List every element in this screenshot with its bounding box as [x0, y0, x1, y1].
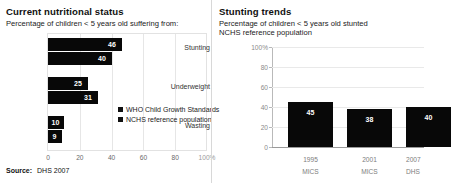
bar-value-wasting-nchs: 9	[53, 130, 57, 143]
gridline-100	[272, 47, 424, 48]
gridline-80	[175, 34, 176, 150]
bar-value-underweight-who: 25	[74, 77, 82, 90]
bar-value-stunting-who: 46	[108, 38, 116, 51]
left-plot-area: 46 40 25 31 10 9 WHO Child Growth Standa…	[47, 33, 207, 151]
bar-value-2007: 40	[406, 114, 451, 121]
ytick-mark-60	[269, 87, 272, 88]
right-plot-area: 45 38 40	[272, 47, 424, 148]
bar-2007	[406, 107, 451, 147]
grouptick-1995-survey: MICS	[288, 167, 333, 176]
source-note: Source:DHS 2007	[6, 167, 69, 174]
right-chart-subtitle-line1: Percentage of children < 5 years old stu…	[219, 19, 424, 28]
grouptick-1995-year: 1995	[288, 155, 333, 164]
y-axis-line	[272, 47, 273, 148]
xtick-60: 60	[140, 154, 147, 161]
ytick-mark-100	[269, 47, 272, 48]
ytick-mark-0	[269, 147, 272, 148]
right-chart-subtitle-line2: NCHS reference population	[219, 28, 424, 37]
gridline-60	[143, 34, 144, 150]
bar-value-2001: 38	[347, 116, 392, 123]
grouptick-2007-survey: DHS	[406, 167, 451, 176]
ytick-mark-20	[269, 127, 272, 128]
xtick-80: 80	[172, 154, 179, 161]
ytick-label-60: 60	[246, 84, 268, 91]
bar-2001	[347, 109, 392, 147]
grouptick-2007-year: 2007	[406, 155, 451, 164]
xtick-20: 20	[76, 154, 83, 161]
xtick-40: 40	[108, 154, 115, 161]
bar-underweight-who	[48, 77, 88, 90]
ytick-mark-40	[269, 107, 272, 108]
category-label-wasting: Wasting	[185, 122, 210, 129]
ytick-label-40: 40	[246, 104, 268, 111]
grouptick-2001-year: 2001	[347, 155, 392, 164]
ytick-mark-80	[269, 67, 272, 68]
gridline-80	[272, 67, 424, 68]
gridline-60	[272, 87, 424, 88]
legend-label-who: WHO Child Growth Standards	[126, 106, 219, 113]
panel-divider	[211, 0, 212, 183]
ytick-label-100: 100%	[246, 44, 268, 51]
right-chart-title: Stunting trends	[219, 6, 424, 17]
ytick-label-0: 0	[246, 144, 268, 151]
legend-item-who: WHO Child Growth Standards	[118, 106, 219, 113]
ytick-label-80: 80	[246, 64, 268, 71]
bar-value-underweight-nchs: 31	[84, 91, 92, 104]
bar-value-1995: 45	[288, 109, 333, 116]
bar-value-wasting-who: 10	[52, 116, 60, 129]
source-label: Source:	[6, 167, 32, 174]
source-value: DHS 2007	[37, 167, 69, 174]
ytick-label-20: 20	[246, 124, 268, 131]
x-axis-line	[272, 147, 424, 148]
left-chart-subtitle: Percentage of children < 5 years old suf…	[6, 19, 212, 28]
grouptick-2001-survey: MICS	[347, 167, 392, 176]
legend-swatch-icon	[118, 107, 123, 112]
xtick-0: 0	[46, 154, 50, 161]
left-chart-title: Current nutritional status	[6, 6, 212, 17]
category-label-stunting: Stunting	[184, 44, 210, 51]
legend-swatch-icon	[118, 117, 123, 122]
bar-value-stunting-nchs: 40	[98, 52, 106, 65]
category-label-underweight: Underweight	[171, 83, 210, 90]
